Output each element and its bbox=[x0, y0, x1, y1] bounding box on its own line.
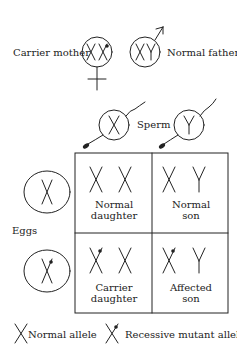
cell-normal-daughter-label: Normal daughter bbox=[76, 199, 152, 221]
cell-normal-son-label: Normal son bbox=[153, 199, 229, 221]
cell-normal-daughter-chromosomes bbox=[90, 167, 131, 192]
sperm-x bbox=[83, 102, 145, 149]
egg-normal bbox=[24, 171, 70, 213]
sperm-label: Sperm bbox=[137, 119, 170, 130]
x-linked-inheritance-diagram: Carrier mother Normal father Sperm Eggs … bbox=[0, 0, 237, 347]
legend-mutant-allele-icon bbox=[106, 324, 118, 343]
cell-affected-son-label: Affected son bbox=[153, 282, 229, 304]
cell-affected-son-chromosomes bbox=[163, 248, 205, 273]
cell-normal-son-chromosomes bbox=[163, 167, 205, 192]
legend-mutant-allele-label: Recessive mutant allele bbox=[125, 329, 237, 340]
mother-label: Carrier mother bbox=[13, 47, 90, 58]
cell-carrier-daughter-chromosomes bbox=[90, 248, 131, 273]
egg-mutant bbox=[24, 250, 70, 292]
eggs-label: Eggs bbox=[12, 225, 37, 236]
cell-carrier-daughter-label: Carrier daughter bbox=[76, 282, 152, 304]
mother-chromosome-circle bbox=[82, 37, 112, 90]
legend-normal-allele-icon bbox=[15, 324, 27, 343]
father-label: Normal father bbox=[167, 47, 237, 58]
father-chromosome-circle bbox=[130, 27, 163, 67]
legend-normal-allele-label: Normal allele bbox=[28, 329, 97, 340]
